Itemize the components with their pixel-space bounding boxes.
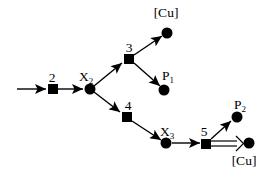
label-step5: 5 (201, 124, 208, 139)
label-p2: P2 (234, 97, 246, 114)
node-p1-circle (159, 85, 170, 96)
edge-step3-to-p1 (134, 63, 160, 86)
node-cu-top-circle (162, 28, 173, 39)
label-step4: 4 (125, 98, 132, 113)
diagram-canvas: 2 X2 3 [Cu] P1 4 X3 5 P2 [Cu] (0, 0, 268, 178)
label-cu-bottom: [Cu] (232, 153, 257, 168)
edge-step5-to-cu-bottom-double-arrow (211, 136, 244, 151)
edge-step4-to-x3 (132, 121, 161, 140)
node-step2-square (48, 84, 58, 94)
node-step4-square (122, 112, 132, 122)
edge-x2-to-step4 (94, 92, 120, 112)
label-x3: X3 (160, 124, 175, 141)
label-cu-top: [Cu] (154, 5, 179, 20)
label-x2: X2 (79, 69, 93, 86)
label-step2: 2 (49, 70, 56, 85)
edge-step3-to-cu-top (134, 36, 162, 55)
edge-step5-to-p2 (211, 121, 231, 139)
label-step3: 3 (126, 40, 133, 55)
node-step3-square (124, 54, 134, 64)
node-step5-square (201, 139, 211, 149)
reaction-network-diagram: 2 X2 3 [Cu] P1 4 X3 5 P2 [Cu] (0, 0, 268, 178)
label-p1: P1 (162, 68, 174, 85)
node-cu-bottom-circle (244, 138, 255, 149)
edge-x2-to-step3 (94, 63, 122, 86)
